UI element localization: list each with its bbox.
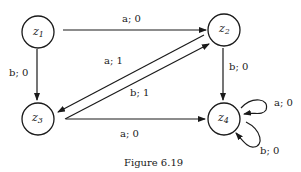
edge-z2-z4: b; 0 [223, 48, 248, 100]
edge-label-z2-z4: b; 0 [229, 61, 248, 72]
node-z3: z3 [22, 103, 54, 135]
edge-z1-z2: a; 0 [63, 13, 206, 30]
edge-label-z1-z3: b; 0 [9, 67, 28, 78]
edge-z4-self-b: b; 0 [236, 122, 279, 156]
edge-label-z4-self-b: b; 0 [260, 145, 279, 156]
node-z1: z1 [22, 16, 54, 48]
edge-z3-z2: b; 1 [65, 44, 209, 119]
edge-label-z2-z3: a; 1 [104, 55, 123, 66]
node-z2: z2 [208, 14, 240, 46]
edge-z2-z3: a; 1 [58, 35, 204, 112]
edge-z3-z4: a; 0 [66, 119, 205, 139]
figure-caption: Figure 6.19 [124, 157, 183, 168]
edge-label-z4-self-a: a; 0 [274, 97, 293, 108]
edge-z1-z3: b; 0 [9, 49, 37, 100]
edge-label-z3-z2: b; 1 [130, 87, 149, 98]
node-z4: z4 [208, 103, 240, 135]
edge-label-z3-z4: a; 0 [120, 128, 139, 139]
state-diagram: a; 0 b; 0 a; 1 b; 1 b; 0 a; 0 a; 0 b; 0 … [0, 0, 301, 172]
edge-label-z1-z2: a; 0 [122, 13, 141, 24]
edge-z4-self-a: a; 0 [241, 97, 293, 114]
